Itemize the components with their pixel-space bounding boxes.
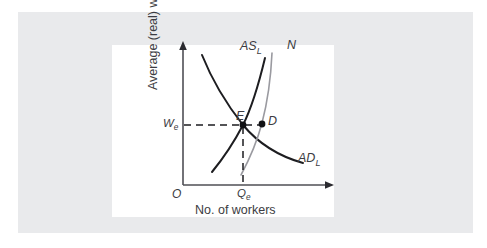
y-axis-label: Average (real) wage rate [147,0,160,90]
point-e-label: E [236,110,244,123]
n-curve-label: N [287,39,296,52]
point-d [259,121,266,128]
y-axis-arrow-icon [179,41,187,50]
origin-label: O [172,188,181,200]
point-d-label: D [268,115,277,128]
qe-tick-label: Qe [237,188,251,203]
as-curve-label: ASL [240,40,262,56]
figure-root: ASL N ADL E D We Qe O No. of workers Ave… [0,0,487,248]
x-axis-label: No. of workers [195,204,276,217]
ad-curve-label: ADL [298,152,320,168]
ad-curve [202,55,303,163]
we-tick-label: We [163,118,178,133]
x-axis-arrow-icon [325,181,334,189]
y-axis-label-wrap: Average (real) wage rate [148,32,164,192]
